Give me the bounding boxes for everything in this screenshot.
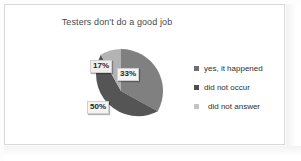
pie-label-did-not-answer: 17%	[90, 60, 112, 73]
legend-swatch-icon	[194, 104, 199, 109]
chart-title: Testers don't do a good job	[12, 17, 222, 27]
pie-chart-figure: Testers don't do a good job 33% 50% 17% …	[0, 0, 301, 161]
legend-label: yes, it happened	[204, 64, 263, 73]
legend-swatch-icon	[194, 85, 199, 90]
pie-label-did-not-occur: 50%	[87, 101, 109, 114]
scan-edge-shading-right	[286, 4, 301, 150]
legend-label: did not occur	[204, 83, 250, 92]
pie-label-yes-it-happened: 33%	[117, 68, 139, 81]
legend-item-did-not-answer[interactable]: did not answer	[194, 97, 286, 116]
legend-label: did not answer	[204, 102, 260, 111]
scan-edge-shading-bottom	[4, 146, 301, 161]
chart-legend: yes, it happened did not occur did not a…	[194, 59, 286, 116]
legend-item-yes-it-happened[interactable]: yes, it happened	[194, 59, 286, 78]
legend-swatch-icon	[194, 66, 199, 71]
legend-item-did-not-occur[interactable]: did not occur	[194, 78, 286, 97]
